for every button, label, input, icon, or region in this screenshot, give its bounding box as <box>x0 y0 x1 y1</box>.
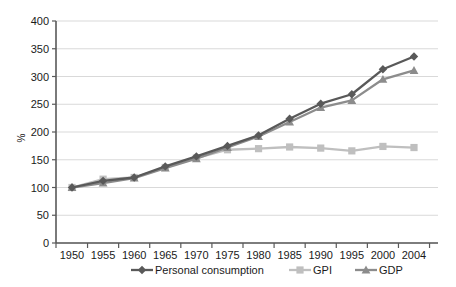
series-gdp <box>68 66 419 191</box>
y-axis-tick-label: 350 <box>31 43 49 55</box>
data-series-group <box>68 52 419 191</box>
y-axis-tick-label: 50 <box>37 209 49 221</box>
gridlines-group <box>56 21 438 243</box>
legend-item-label: Personal consumption <box>155 264 264 276</box>
y-axis-tick-label: 100 <box>31 182 49 194</box>
y-axis-title: % <box>16 133 27 142</box>
legend-marker-swatch <box>138 266 146 274</box>
series-line <box>72 70 414 187</box>
series-line <box>72 146 414 187</box>
legend-item-personal-consumption: Personal consumption <box>131 264 264 276</box>
data-point-marker <box>410 66 419 74</box>
x-axis-tick-label: 1955 <box>91 249 115 261</box>
chart-container: 050100150200250300350400 195019551960196… <box>0 0 456 287</box>
legend-item-label: GPI <box>313 264 332 276</box>
x-axis-group: 1950195519601965197019751980198519901995… <box>56 243 438 261</box>
x-axis-tick-label: 2004 <box>402 249 426 261</box>
y-axis-tick-label: 150 <box>31 154 49 166</box>
data-point-marker <box>410 52 418 60</box>
data-point-marker <box>317 144 324 151</box>
x-axis-tick-label: 1990 <box>308 249 332 261</box>
x-axis-tick-label: 1960 <box>122 249 146 261</box>
legend-item-gdp: GDP <box>355 264 403 276</box>
legend-item-label: GDP <box>379 264 403 276</box>
y-axis-tick-label: 200 <box>31 126 49 138</box>
x-axis-tick-label: 1995 <box>340 249 364 261</box>
legend-marker-swatch <box>296 266 303 273</box>
line-chart: 050100150200250300350400 195019551960196… <box>0 0 456 287</box>
data-point-marker <box>410 144 417 151</box>
x-axis-tick-label: 1980 <box>246 249 270 261</box>
x-axis-tick-label: 1965 <box>153 249 177 261</box>
series-personal-consumption <box>68 52 418 191</box>
data-point-marker <box>348 147 355 154</box>
data-point-marker <box>286 143 293 150</box>
legend-item-gpi: GPI <box>289 264 332 276</box>
x-axis-tick-label: 1970 <box>184 249 208 261</box>
y-axis-tick-label: 0 <box>43 237 49 249</box>
y-axis-group: 050100150200250300350400 <box>31 15 56 249</box>
y-axis-tick-label: 250 <box>31 98 49 110</box>
series-gpi <box>68 143 417 191</box>
y-axis-tick-label: 300 <box>31 71 49 83</box>
y-axis-tick-label: 400 <box>31 15 49 27</box>
data-point-marker <box>379 143 386 150</box>
x-axis-tick-label: 1975 <box>215 249 239 261</box>
data-point-marker <box>255 145 262 152</box>
x-axis-tick-label: 1950 <box>60 249 84 261</box>
x-axis-tick-label: 2000 <box>371 249 395 261</box>
x-axis-tick-label: 1985 <box>277 249 301 261</box>
chart-legend: Personal consumptionGPIGDP <box>131 264 403 276</box>
